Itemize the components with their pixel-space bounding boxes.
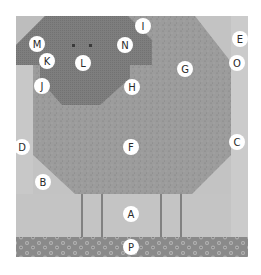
left-eye (72, 44, 75, 47)
piece-label-c: C (229, 134, 245, 150)
piece-label-h: H (124, 79, 140, 95)
label-text: N (121, 40, 128, 51)
piece-label-n: N (117, 37, 133, 53)
label-text: I (142, 21, 145, 32)
label-text: L (80, 58, 86, 69)
piece-label-b: B (35, 174, 51, 190)
label-text: A (128, 209, 135, 220)
label-text: G (181, 64, 189, 75)
piece-label-i: I (135, 18, 151, 34)
label-text: M (33, 39, 42, 50)
sheep-quilt-diagram: ABCDEFGHIJKLMNOP (0, 0, 261, 275)
label-text: B (40, 177, 47, 188)
piece-label-a: A (123, 206, 139, 222)
label-text: P (128, 242, 134, 253)
piece-label-p: P (123, 239, 139, 255)
label-text: J (40, 81, 44, 92)
label-text: H (128, 82, 136, 93)
piece-label-f: F (123, 139, 139, 155)
piece-label-l: L (75, 55, 91, 71)
label-text: K (44, 56, 51, 67)
label-text: F (128, 142, 134, 153)
piece-label-m: M (29, 36, 45, 52)
label-text: C (234, 137, 241, 148)
piece-label-j: J (34, 78, 50, 94)
right-eye (89, 44, 92, 47)
piece-label-k: K (39, 53, 55, 69)
piece-label-g: G (177, 61, 193, 77)
label-text: D (18, 142, 26, 153)
right-side-strip (231, 16, 248, 237)
label-text: O (233, 58, 241, 69)
piece-label-o: O (229, 55, 245, 71)
piece-label-e: E (232, 31, 248, 47)
piece-label-d: D (14, 139, 30, 155)
label-text: E (237, 34, 243, 45)
